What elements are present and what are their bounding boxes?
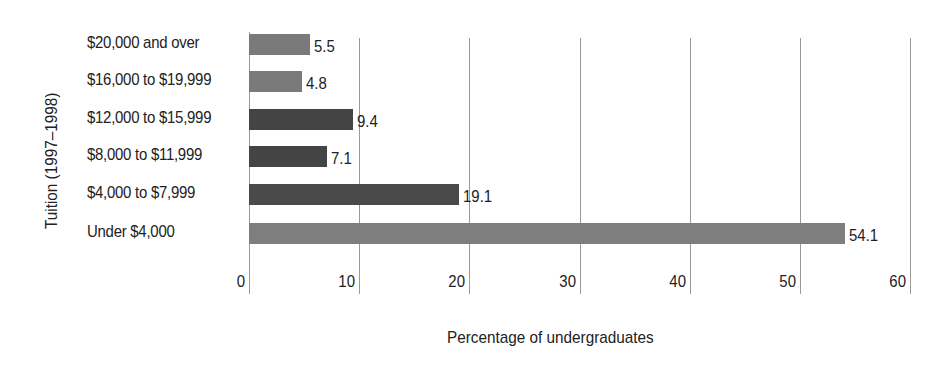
x-tick-label: 60 <box>871 272 906 292</box>
bar <box>249 146 327 167</box>
bar <box>249 223 845 244</box>
value-label: 19.1 <box>463 187 492 207</box>
gridline <box>690 38 691 294</box>
gridline <box>800 38 801 294</box>
x-tick-label: 30 <box>541 272 576 292</box>
category-label: $12,000 to $15,999 <box>87 108 211 128</box>
gridline <box>359 38 360 294</box>
gridline <box>580 38 581 294</box>
category-label: $8,000 to $11,999 <box>87 145 202 165</box>
bar <box>249 71 302 92</box>
bar-chart: Tuition (1997–1998) Percentage of underg… <box>0 0 947 368</box>
x-axis-label: Percentage of undergraduates <box>447 328 654 348</box>
category-label: $20,000 and over <box>87 33 199 53</box>
bar <box>249 34 310 55</box>
category-label: $4,000 to $7,999 <box>87 183 195 203</box>
y-axis-label: Tuition (1997–1998) <box>42 93 62 229</box>
bar <box>249 109 353 130</box>
value-label: 7.1 <box>331 149 352 169</box>
value-label: 9.4 <box>357 112 378 132</box>
gridline <box>469 38 470 294</box>
x-tick-label: 10 <box>320 272 355 292</box>
x-tick-label: 50 <box>761 272 796 292</box>
x-tick-label: 20 <box>430 272 465 292</box>
value-label: 4.8 <box>306 74 327 94</box>
category-label: $16,000 to $19,999 <box>87 70 211 90</box>
category-label: Under $4,000 <box>87 222 174 242</box>
x-tick-label: 0 <box>210 272 245 292</box>
bar <box>249 184 459 205</box>
x-tick-label: 40 <box>651 272 686 292</box>
value-label: 54.1 <box>849 226 878 246</box>
gridline <box>910 38 911 294</box>
value-label: 5.5 <box>314 37 335 57</box>
